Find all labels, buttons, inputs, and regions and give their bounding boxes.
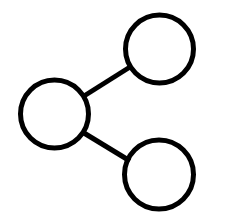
share-diagram bbox=[0, 0, 241, 220]
canvas-root bbox=[0, 0, 241, 220]
background-rect bbox=[0, 0, 241, 220]
